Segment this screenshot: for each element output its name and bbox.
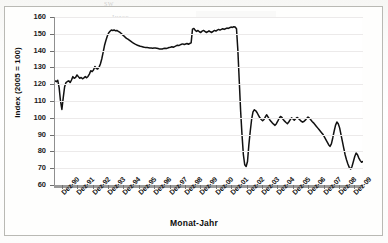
x-axis: Dez-90Dez-91Dez-92Dez-93Dez-94Dez-95Dez-… bbox=[0, 0, 388, 243]
chart-figure: SW Ιητερ τδυ μα τ νς Index (2005 = 100) … bbox=[0, 0, 388, 243]
x-axis-title: Monat-Jahr bbox=[0, 218, 388, 228]
